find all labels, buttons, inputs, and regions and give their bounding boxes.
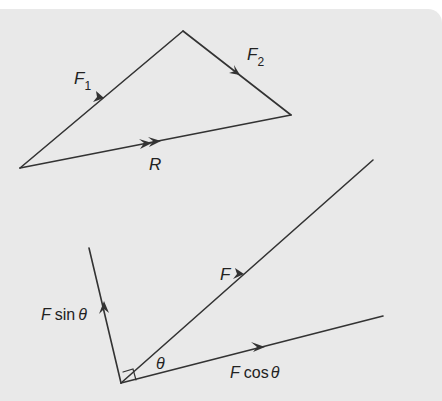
vector-f [121, 160, 373, 383]
vector-f-sin [89, 248, 121, 383]
label-theta: θ [156, 355, 165, 372]
label-f-sin-theta: Fsinθ [41, 306, 87, 323]
vector-f1 [20, 31, 183, 168]
label-f2: F2 [247, 45, 264, 69]
label-f-cos-theta: Fcosθ [230, 364, 280, 381]
vector-diagram: F1 F2 R F θ Fsinθ Fcosθ [0, 0, 442, 401]
arrow-f1-icon [93, 91, 104, 102]
arrow-f-cos-icon [251, 342, 265, 352]
label-r: R [149, 155, 161, 174]
arrow-f-icon [233, 268, 244, 279]
label-f: F [220, 265, 232, 284]
arrowheads-triangle [93, 65, 240, 149]
force-components [89, 160, 383, 383]
label-f1: F1 [74, 69, 91, 93]
arrow-f2-icon [229, 65, 240, 75]
arrowheads-components [99, 268, 265, 352]
